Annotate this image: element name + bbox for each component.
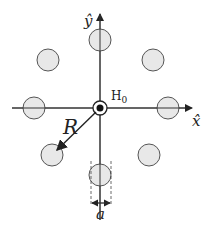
circle-top-left bbox=[37, 49, 59, 71]
y-axis-label: ŷ bbox=[83, 12, 93, 30]
radius-label: R bbox=[62, 115, 78, 139]
x-axis-label: x̂ bbox=[192, 112, 201, 130]
diameter-label: a bbox=[96, 205, 105, 223]
diagram-canvas: ŷ x̂ H0 R a bbox=[0, 0, 211, 230]
circle-top-right bbox=[142, 49, 164, 71]
center-label: H0 bbox=[111, 89, 127, 105]
circle-bottom-right bbox=[138, 144, 160, 166]
